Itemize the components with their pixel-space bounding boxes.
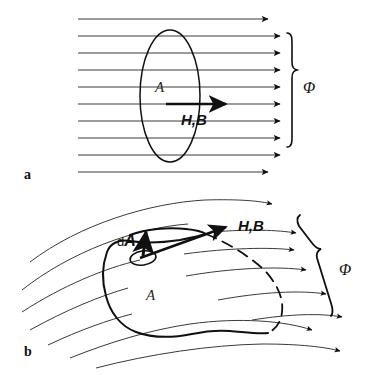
panel-b-area-element-label: dA [117,233,136,249]
panel-b-field-lines [22,200,340,368]
panel-a-caption: a [24,168,31,182]
panel-b-normal-vector-arrow [143,232,146,256]
figure-canvas [0,0,376,375]
panel-b-area-element-vector: A [124,232,136,249]
panel-b-field-label: H,B [238,218,264,233]
panel-a-area-label: A [155,80,164,95]
panel-b-flux-label: Φ [339,262,351,278]
panel-b-flux-brace [297,215,332,316]
panel-a-flux-brace [287,33,297,147]
panel-a-field-label: H,B [181,112,207,127]
panel-b-caption: b [24,345,32,359]
panel-a-flux-label: Φ [303,80,315,96]
panel-a-area-ellipse [140,30,200,162]
panel-b-field-lines-crossing [184,230,342,320]
panel-a-field-lines [78,19,280,172]
panel-b-area-label: A [146,288,155,303]
magnetic-flux-figure: a A H,B Φ b dA A H,B Φ [0,0,376,375]
